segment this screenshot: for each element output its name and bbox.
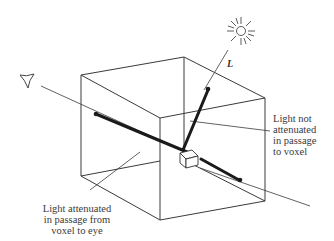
label-light-attenuated: Light attenuated in passage from voxel t…	[40, 203, 114, 236]
eye-icon	[20, 74, 34, 88]
label-light-not-attenuated: Light not attenuated in passage to voxel	[273, 113, 316, 157]
volume-box	[81, 57, 265, 220]
label-line: in passage from	[40, 214, 114, 225]
thick-rays	[96, 90, 239, 180]
label-line: Light not	[273, 113, 316, 124]
sun-icon	[227, 17, 255, 45]
label-line: to voxel	[273, 146, 316, 157]
label-line: Light attenuated	[40, 203, 114, 214]
voxel-cube	[180, 150, 198, 168]
label-line: voxel to eye	[40, 225, 114, 236]
label-line: attenuated	[273, 124, 316, 135]
label-line: in passage	[273, 135, 316, 146]
light-vector-label: L	[227, 58, 233, 69]
